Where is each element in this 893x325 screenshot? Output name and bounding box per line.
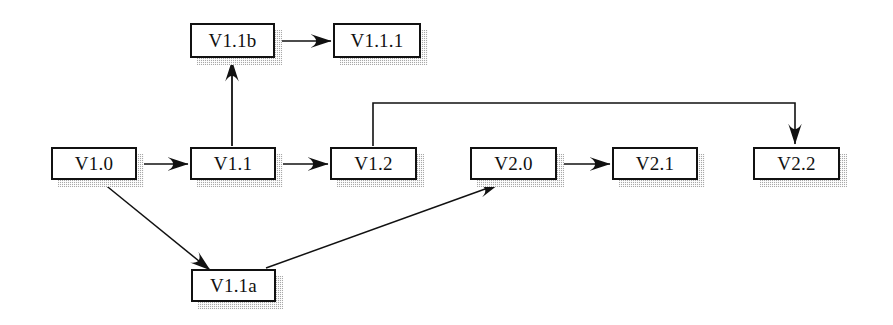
- node-label-v1-1-1: V1.1.1: [351, 31, 404, 50]
- edge-v1-1a-to-v2-0: [266, 184, 499, 268]
- node-v2-2[interactable]: V2.2: [753, 147, 840, 180]
- node-label-v1-0: V1.0: [75, 154, 113, 173]
- node-v1-1[interactable]: V1.1: [190, 147, 276, 180]
- node-v1-2[interactable]: V1.2: [330, 147, 417, 180]
- node-label-v2-1: V2.1: [636, 154, 674, 173]
- node-v1-1-1[interactable]: V1.1.1: [333, 23, 421, 58]
- node-label-v2-2: V2.2: [777, 154, 815, 173]
- edge-v1-2-to-v2-2: [373, 103, 795, 146]
- node-v2-0[interactable]: V2.0: [470, 147, 557, 180]
- node-v1-0[interactable]: V1.0: [51, 147, 137, 180]
- node-label-v1-1: V1.1: [214, 154, 252, 173]
- node-v2-1[interactable]: V2.1: [612, 147, 698, 180]
- node-label-v1-1a: V1.1a: [210, 276, 257, 295]
- node-v1-1b[interactable]: V1.1b: [190, 23, 275, 58]
- version-graph-diagram: V1.1b V1.1.1 V1.0 V1.1 V1.2 V2.0 V2.1 V2…: [0, 0, 893, 325]
- node-v1-1a[interactable]: V1.1a: [191, 269, 276, 302]
- node-label-v1-1b: V1.1b: [209, 31, 257, 50]
- node-label-v1-2: V1.2: [354, 154, 392, 173]
- node-label-v2-0: V2.0: [494, 154, 532, 173]
- edge-v1-0-to-v1-1a: [98, 179, 210, 270]
